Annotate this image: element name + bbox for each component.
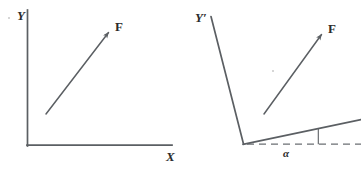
right-y-prime-axis-label: Y′ — [195, 11, 207, 24]
right-force-vector-label: F — [328, 22, 336, 35]
right-panel-group — [211, 17, 361, 145]
left-force-vector-arrow — [46, 33, 109, 115]
rotation-angle-label: α — [283, 148, 289, 159]
figure-canvas: Y X F Y′ F α — [0, 0, 361, 171]
left-force-vector-label: F — [115, 20, 123, 33]
right-x-prime-axis-line — [243, 120, 361, 145]
scan-artifact-speck — [8, 17, 10, 19]
right-force-vector-arrow — [264, 35, 322, 115]
left-y-axis-label: Y — [17, 9, 25, 22]
right-y-prime-axis-line — [211, 17, 244, 145]
figure-vector-graphics — [0, 0, 361, 171]
scan-artifact-speck-2 — [272, 70, 274, 72]
left-panel-group — [27, 10, 172, 146]
left-x-axis-label: X — [166, 150, 175, 163]
